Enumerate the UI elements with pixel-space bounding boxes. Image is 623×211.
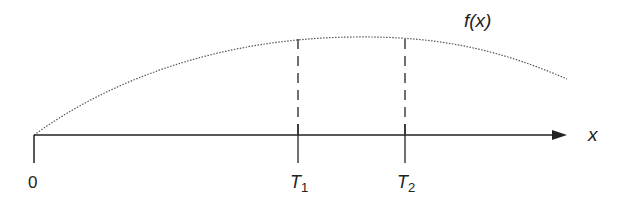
function-curve xyxy=(34,37,567,135)
t2-label: T2 xyxy=(397,172,415,195)
t1-label-sub: 1 xyxy=(301,180,308,195)
x-axis-arrow-icon xyxy=(552,130,567,140)
curve-label: f(x) xyxy=(464,10,491,31)
axis-label: x xyxy=(587,124,599,145)
t2-label-sub: 2 xyxy=(408,180,415,195)
diagram-canvas: f(x) x 0 T1 T2 xyxy=(0,0,623,211)
t1-label: T1 xyxy=(290,172,308,195)
origin-label: 0 xyxy=(28,173,37,192)
